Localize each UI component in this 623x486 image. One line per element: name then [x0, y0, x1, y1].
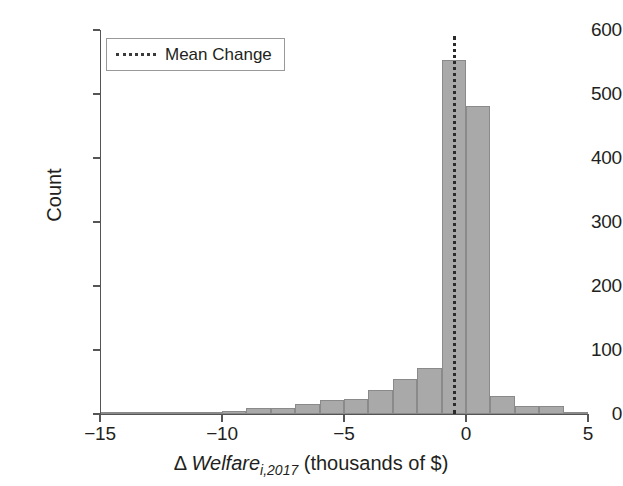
x-axis-tick-label: −15 — [65, 424, 135, 443]
x-axis-tick-label: 0 — [431, 424, 501, 443]
mean-change-line — [453, 36, 456, 414]
legend-item-label: Mean Change — [165, 46, 272, 63]
histogram-bar — [490, 396, 514, 414]
y-axis-line — [100, 30, 101, 415]
y-axis-title: Count — [44, 135, 64, 255]
y-axis-tick-label: 500 — [536, 84, 622, 103]
x-axis-tick-mark — [343, 415, 344, 422]
y-axis-tick-mark — [93, 29, 100, 30]
y-axis-tick-label: 0 — [536, 404, 622, 423]
y-axis-tick-label: 400 — [536, 148, 622, 167]
legend: Mean Change — [106, 38, 285, 71]
x-axis-title-variable: Welfare — [192, 452, 261, 474]
histogram-bar — [344, 399, 368, 414]
x-axis-title-units: (thousands of $) — [304, 452, 449, 474]
y-axis-tick-mark — [93, 221, 100, 222]
histogram-bar — [320, 400, 344, 414]
x-axis-title-subscript: i,2017 — [260, 462, 298, 478]
x-axis-title: Δ Welfarei,2017 (thousands of $) — [0, 452, 622, 481]
plot-area — [100, 30, 588, 414]
y-axis-tick-mark — [93, 285, 100, 286]
mean-change-line-swatch — [116, 53, 156, 56]
y-axis-tick-label: 300 — [536, 212, 622, 231]
histogram-bar — [393, 379, 417, 414]
histogram-bar — [417, 368, 441, 414]
histogram-bar — [466, 106, 490, 414]
y-axis-tick-mark — [93, 349, 100, 350]
x-axis-tick-mark — [99, 415, 100, 422]
x-axis-tick-label: −10 — [187, 424, 257, 443]
bars-layer — [100, 30, 588, 414]
histogram-bar — [295, 404, 319, 414]
x-axis-tick-mark — [587, 415, 588, 422]
y-axis-tick-mark — [93, 93, 100, 94]
histogram-bar — [368, 390, 392, 414]
x-axis-tick-mark — [221, 415, 222, 422]
y-axis-tick-mark — [93, 157, 100, 158]
y-axis-tick-label: 100 — [536, 340, 622, 359]
x-axis-title-delta: Δ — [174, 452, 186, 474]
x-axis-tick-label: −5 — [309, 424, 379, 443]
y-axis-tick-label: 600 — [536, 20, 622, 39]
x-axis-tick-label: 5 — [553, 424, 623, 443]
y-axis-tick-label: 200 — [536, 276, 622, 295]
x-axis-tick-mark — [465, 415, 466, 422]
